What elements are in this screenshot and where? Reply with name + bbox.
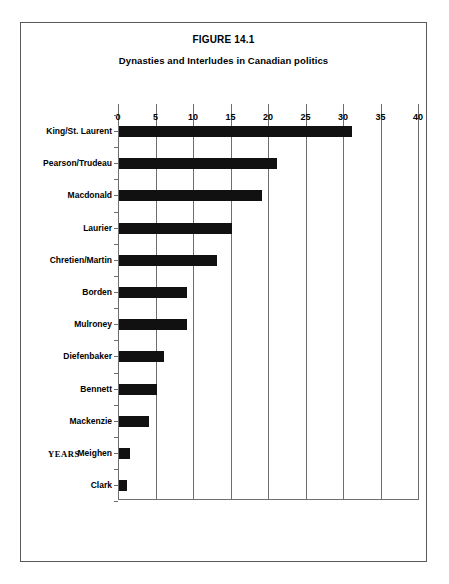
y-tick-mark <box>114 389 118 390</box>
x-tick-mark-0 <box>118 495 119 500</box>
x-tick-mark-40 <box>418 495 419 500</box>
category-label: Chretien/Martin <box>50 255 112 266</box>
category-label: King/St. Laurent <box>46 126 112 137</box>
x-tick-label-15: 15 <box>225 112 235 123</box>
bar <box>119 255 217 266</box>
x-tick-label-0: 0 <box>115 112 120 123</box>
y-tick-minor <box>114 469 118 470</box>
y-tick-mark <box>114 195 118 196</box>
y-tick-mark <box>114 453 118 454</box>
bar <box>119 126 352 137</box>
category-label: Macdonald <box>68 190 112 201</box>
bar <box>119 190 262 201</box>
y-tick-minor <box>114 212 118 213</box>
y-tick-mark <box>114 163 118 164</box>
bar <box>119 480 127 491</box>
category-label: Meighen <box>78 448 112 459</box>
y-tick-minor <box>114 147 118 148</box>
bar <box>119 287 187 298</box>
figure-subtitle: Dynasties and Interludes in Canadian pol… <box>21 54 426 68</box>
x-tick-label-10: 10 <box>188 112 198 123</box>
figure-title-block: FIGURE 14.1 Dynasties and Interludes in … <box>21 33 426 68</box>
category-label: Laurier <box>83 223 112 234</box>
y-tick-mark <box>114 356 118 357</box>
bar <box>119 158 277 169</box>
x-tick-label-40: 40 <box>413 112 423 123</box>
y-tick-mark <box>114 260 118 261</box>
category-label: Mulroney <box>74 319 112 330</box>
x-tick-label-20: 20 <box>263 112 273 123</box>
x-tick-label-25: 25 <box>300 112 310 123</box>
category-label: Pearson/Trudeau <box>43 158 112 169</box>
y-tick-minor <box>114 405 118 406</box>
category-label: Borden <box>82 287 112 298</box>
y-tick-minor <box>114 373 118 374</box>
y-tick-mark <box>114 292 118 293</box>
x-tick-mark-20 <box>268 495 269 500</box>
x-tick-mark-35 <box>381 495 382 500</box>
y-tick-minor <box>114 437 118 438</box>
gridline-40 <box>418 104 419 500</box>
category-label: Clark <box>91 480 112 491</box>
y-tick-mark <box>114 228 118 229</box>
x-axis-title: YEARS <box>48 449 80 459</box>
y-tick-minor <box>114 244 118 245</box>
y-tick-mark <box>114 324 118 325</box>
x-tick-mark-15 <box>231 495 232 500</box>
bar-chart-plot-area: 0510152025303540 King/St. LaurentPearson… <box>118 104 418 500</box>
x-tick-mark-10 <box>193 495 194 500</box>
bar <box>119 351 164 362</box>
x-tick-mark-25 <box>306 495 307 500</box>
gridline-35 <box>381 104 382 500</box>
bar <box>119 384 157 395</box>
y-tick-minor <box>114 308 118 309</box>
y-tick-minor <box>114 340 118 341</box>
gridline-30 <box>343 104 344 500</box>
y-tick-mark <box>114 485 118 486</box>
x-tick-label-35: 35 <box>375 112 385 123</box>
x-tick-mark-5 <box>156 495 157 500</box>
bar <box>119 319 187 330</box>
bar <box>119 223 232 234</box>
x-tick-label-5: 5 <box>153 112 158 123</box>
y-tick-minor <box>114 276 118 277</box>
y-tick-mark <box>114 131 118 132</box>
bar <box>119 416 149 427</box>
x-tick-label-30: 30 <box>338 112 348 123</box>
category-label: Mackenzie <box>69 416 112 427</box>
figure-frame: FIGURE 14.1 Dynasties and Interludes in … <box>20 22 427 562</box>
x-tick-mark-30 <box>343 495 344 500</box>
y-tick-mark <box>114 421 118 422</box>
figure-title: FIGURE 14.1 <box>21 33 426 47</box>
bar <box>119 448 130 459</box>
category-label: Diefenbaker <box>63 351 112 362</box>
y-tick-minor <box>114 115 118 116</box>
gridline-25 <box>306 104 307 500</box>
category-label: Bennett <box>80 384 112 395</box>
y-tick-minor <box>114 501 118 502</box>
y-tick-minor <box>114 179 118 180</box>
